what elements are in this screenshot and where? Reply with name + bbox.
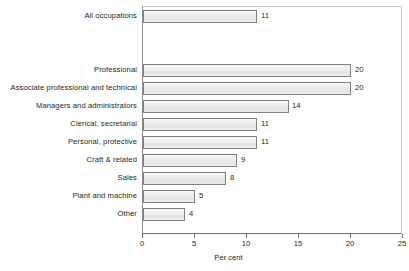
value-label: 20 (355, 63, 363, 76)
tick-mark (142, 234, 143, 238)
bar-row: Clerical, secretarial 11 (0, 118, 409, 131)
bar (143, 10, 257, 23)
bar (143, 154, 237, 167)
bar-row: Craft & related 9 (0, 154, 409, 167)
bar-row: Sales 8 (0, 172, 409, 185)
value-label: 9 (241, 153, 245, 166)
bar-row: Associate professional and technical 20 (0, 82, 409, 95)
tick-label: 0 (127, 239, 157, 249)
tick-label: 15 (283, 239, 313, 249)
category-label: Managers and administrators (0, 99, 137, 112)
value-label: 11 (261, 135, 269, 148)
value-label: 14 (292, 99, 300, 112)
category-label: Personal, protective (0, 135, 137, 148)
bar-rows: All occupations 11 Professional 20 Assoc… (0, 0, 409, 234)
bar (143, 172, 226, 185)
bar-row: Managers and administrators 14 (0, 100, 409, 113)
bar (143, 190, 195, 203)
value-label: 11 (261, 117, 269, 130)
category-label: Sales (0, 171, 137, 184)
bar-row: Professional 20 (0, 64, 409, 77)
bar (143, 136, 257, 149)
tick-mark (298, 234, 299, 238)
tick-mark (194, 234, 195, 238)
tick-mark (402, 234, 403, 238)
bar-chart: All occupations 11 Professional 20 Assoc… (0, 0, 409, 271)
category-label: Clerical, secretarial (0, 117, 137, 130)
bar-row: All occupations 11 (0, 10, 409, 23)
tick-mark (350, 234, 351, 238)
tick-label: 25 (387, 239, 409, 249)
bar (143, 64, 351, 77)
tick-mark (246, 234, 247, 238)
bar-row: Other 4 (0, 208, 409, 221)
category-label: Associate professional and technical (0, 81, 137, 94)
tick-label: 20 (335, 239, 365, 249)
category-label: Professional (0, 63, 137, 76)
x-axis-title-text: Per cent (214, 253, 242, 262)
bar (143, 208, 185, 221)
value-label: 20 (355, 81, 363, 94)
value-label: 11 (261, 9, 269, 22)
category-label: Craft & related (0, 153, 137, 166)
x-axis-ticks: 0 5 10 15 20 25 (0, 234, 409, 254)
bar (143, 118, 257, 131)
category-label: All occupations (0, 9, 137, 22)
x-axis-title: Per cent (0, 252, 409, 263)
value-label: 5 (199, 189, 203, 202)
value-label: 8 (230, 171, 234, 184)
category-label: Other (0, 207, 137, 220)
bar-row: Personal, protective 11 (0, 136, 409, 149)
bar (143, 100, 289, 113)
bar (143, 82, 351, 95)
tick-label: 5 (179, 239, 209, 249)
category-label: Plant and machine (0, 189, 137, 202)
bar-row: Plant and machine 5 (0, 190, 409, 203)
value-label: 4 (189, 207, 193, 220)
tick-label: 10 (231, 239, 261, 249)
